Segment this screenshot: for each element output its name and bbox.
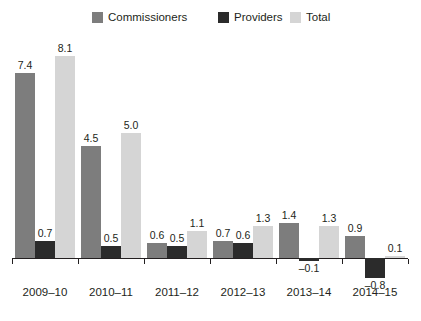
bar-total-2014–15[interactable] <box>385 256 405 259</box>
bar-chart-plot: 7.40.78.12009–104.50.55.02010–110.60.51.… <box>0 0 421 321</box>
x-axis-tick <box>408 259 409 264</box>
x-axis-category-label: 2013–14 <box>276 286 342 299</box>
bar-value-label: –0.1 <box>293 263 325 274</box>
bar-value-label: 8.1 <box>49 43 81 54</box>
bar-value-label: 5.0 <box>115 120 147 131</box>
bar-value-label: 1.4 <box>273 210 305 221</box>
x-axis-category-label: 2014–15 <box>342 286 408 299</box>
x-axis-category-label: 2009–10 <box>12 286 78 299</box>
bar-providers-2011–12[interactable] <box>167 246 187 259</box>
bar-value-label: 0.1 <box>379 243 411 254</box>
bar-commissioners-2013–14[interactable] <box>279 223 299 258</box>
x-axis-category-label: 2011–12 <box>144 286 210 299</box>
bar-providers-2010–11[interactable] <box>101 246 121 259</box>
x-axis-tick <box>144 259 145 264</box>
bar-providers-2014–15[interactable] <box>365 258 385 278</box>
bar-commissioners-2012–13[interactable] <box>213 241 233 259</box>
x-axis-category-label: 2012–13 <box>210 286 276 299</box>
x-axis-tick <box>78 259 79 264</box>
bar-total-2009–10[interactable] <box>55 56 75 259</box>
x-axis-tick <box>12 259 13 264</box>
x-axis-tick <box>210 259 211 264</box>
bar-value-label: 7.4 <box>9 60 41 71</box>
bar-providers-2013–14[interactable] <box>299 258 319 261</box>
bar-total-2012–13[interactable] <box>253 226 273 259</box>
bar-providers-2009–10[interactable] <box>35 241 55 259</box>
bar-providers-2012–13[interactable] <box>233 243 253 258</box>
bar-total-2013–14[interactable] <box>319 226 339 259</box>
bar-commissioners-2014–15[interactable] <box>345 236 365 259</box>
x-axis-tick <box>342 259 343 264</box>
x-axis-category-label: 2010–11 <box>78 286 144 299</box>
bar-value-label: 0.9 <box>339 223 371 234</box>
x-axis-tick <box>276 259 277 264</box>
bar-total-2011–12[interactable] <box>187 231 207 259</box>
bar-value-label: 4.5 <box>75 133 107 144</box>
bar-total-2010–11[interactable] <box>121 133 141 258</box>
bar-commissioners-2011–12[interactable] <box>147 243 167 258</box>
